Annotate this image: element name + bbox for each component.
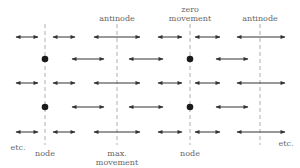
- node-dot: [42, 104, 49, 111]
- label-zero-movement-2: movement: [169, 14, 211, 23]
- node-dot: [42, 56, 49, 63]
- node-dot: [187, 56, 194, 63]
- label-antinode-2: antinode: [242, 14, 278, 23]
- dashed-lines: [45, 24, 260, 145]
- label-zero-movement-1: zero: [181, 5, 199, 14]
- node-dot: [187, 104, 194, 111]
- label-node-2: node: [180, 149, 200, 158]
- label-antinode-1: antinode: [99, 14, 135, 23]
- label-max-movement-2: movement: [96, 158, 138, 167]
- label-etc-left: etc.: [11, 143, 26, 152]
- displacement-arrows: [16, 37, 285, 132]
- label-max-movement-1: max.: [107, 149, 126, 158]
- standing-wave-diagram: [0, 0, 300, 168]
- label-etc-right: etc.: [279, 139, 294, 148]
- label-node-1: node: [35, 149, 55, 158]
